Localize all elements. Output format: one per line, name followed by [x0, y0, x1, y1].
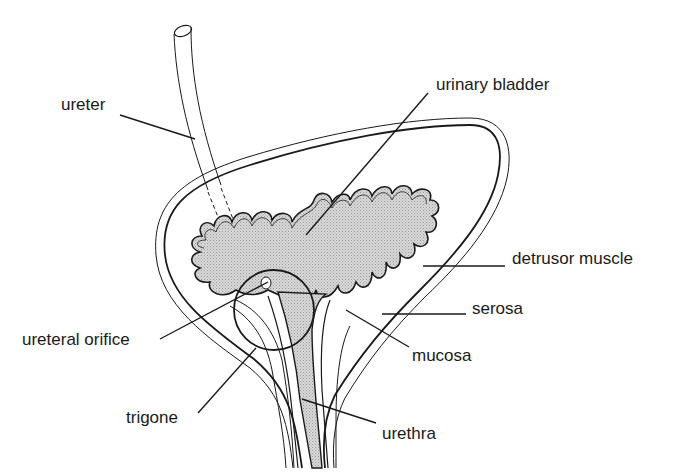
diagram-canvas: [0, 0, 675, 473]
label-ureteral-orifice: ureteral orifice: [22, 331, 130, 348]
label-serosa: serosa: [472, 300, 523, 317]
label-urinary-bladder: urinary bladder: [436, 76, 549, 93]
bladder-diagram: ureter urinary bladder detrusor muscle s…: [0, 0, 675, 473]
urethra: [230, 292, 350, 468]
label-urethra: urethra: [382, 425, 436, 442]
label-mucosa: mucosa: [412, 347, 472, 364]
label-ureter: ureter: [61, 96, 105, 113]
label-trigone: trigone: [126, 409, 178, 426]
label-detrusor-muscle: detrusor muscle: [512, 250, 633, 267]
bladder-lumen: [192, 186, 439, 301]
